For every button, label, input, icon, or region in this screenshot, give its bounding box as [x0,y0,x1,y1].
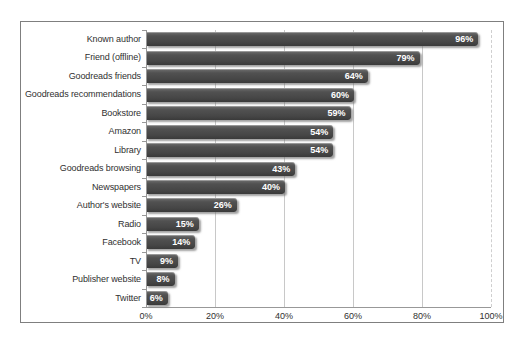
bar-value-label: 9% [160,254,173,268]
bar-library: 54% [147,143,333,157]
category-axis-tick [142,289,146,290]
category-axis-tick [142,252,146,253]
category-axis-tick [142,48,146,49]
category-label: Newspapers [21,178,141,196]
category-label: Facebook [21,233,141,251]
bar-value-label: 15% [176,217,194,231]
category-axis-tick [142,270,146,271]
bar-value-label: 26% [214,198,232,212]
x-tick-label-100: 100% [479,311,502,321]
bar-value-label: 43% [272,162,290,176]
category-axis-tick [142,122,146,123]
category-axis-tick [142,196,146,197]
category-label: Bookstore [21,104,141,122]
bar-newspapers: 40% [147,180,285,194]
gridline-80 [422,30,423,307]
category-axis-tick [142,215,146,216]
bar-publisher-website: 8% [147,272,175,286]
category-axis-tick [142,85,146,86]
bar-twitter: 6% [147,291,168,305]
x-tick-label-80: 80% [413,311,431,321]
bar-value-label: 59% [328,106,346,120]
bar-facebook: 14% [147,235,195,249]
category-label: Goodreads friends [21,67,141,85]
x-tick-label-60: 60% [344,311,362,321]
category-label: Known author [21,30,141,48]
bar-value-label: 79% [397,51,415,65]
bar-value-label: 54% [310,143,328,157]
bar-bookstore: 59% [147,106,351,120]
bar-chart: 96%79%64%60%59%54%54%43%40%26%15%14%9%8%… [0,0,521,340]
category-label: TV [21,252,141,270]
bar-goodreads-recommendations: 60% [147,88,354,102]
bar-value-label: 60% [331,88,349,102]
bar-value-label: 14% [172,235,190,249]
x-tick-label-40: 40% [275,311,293,321]
bar-tv: 9% [147,254,178,268]
bar-value-label: 8% [157,272,170,286]
category-label: Radio [21,215,141,233]
category-label: Goodreads recommendations [21,85,141,103]
bar-goodreads-friends: 64% [147,69,368,83]
category-label: Author's website [21,196,141,214]
category-axis-tick [142,104,146,105]
x-tick-label-0: 0% [139,311,152,321]
bar-value-label: 54% [310,125,328,139]
category-axis-tick [142,233,146,234]
category-label: Goodreads browsing [21,159,141,177]
category-label: Friend (offline) [21,48,141,66]
category-axis-tick [142,178,146,179]
bar-value-label: 96% [455,32,473,46]
bar-value-label: 6% [150,291,163,305]
gridline-100 [491,30,492,307]
category-axis-tick [142,67,146,68]
bar-amazon: 54% [147,125,333,139]
plot-area: 96%79%64%60%59%54%54%43%40%26%15%14%9%8%… [146,30,491,308]
bar-radio: 15% [147,217,199,231]
bar-goodreads-browsing: 43% [147,162,295,176]
category-label: Publisher website [21,270,141,288]
bar-known-author: 96% [147,32,478,46]
chart-frame: 96%79%64%60%59%54%54%43%40%26%15%14%9%8%… [20,21,504,323]
category-label: Library [21,141,141,159]
category-label: Twitter [21,289,141,307]
category-axis-tick [142,307,146,308]
category-axis-tick [142,30,146,31]
category-axis-tick [142,141,146,142]
category-label: Amazon [21,122,141,140]
x-tick-label-20: 20% [206,311,224,321]
bar-author-s-website: 26% [147,198,237,212]
bar-friend-offline-: 79% [147,51,420,65]
bar-value-label: 40% [262,180,280,194]
category-axis-tick [142,159,146,160]
bar-value-label: 64% [345,69,363,83]
